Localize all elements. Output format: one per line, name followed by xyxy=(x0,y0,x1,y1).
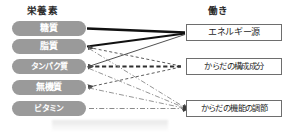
edge-fat-to-structure xyxy=(89,48,181,67)
nutrient-pill-vitamin[interactable]: ビタミン xyxy=(12,101,86,116)
nutrient-pill-protein[interactable]: タンパク質 xyxy=(12,59,86,74)
edge-fat-to-energy xyxy=(87,34,185,47)
nutrient-pill-mineral[interactable]: 無機質 xyxy=(12,80,86,95)
function-label: エネルギー源 xyxy=(208,28,260,37)
function-box-energy-source[interactable]: エネルギー源 xyxy=(186,24,282,41)
diagram-canvas: 栄養素 働き 糖質 脂質 xyxy=(0,0,295,133)
nutrient-label: 無機質 xyxy=(36,83,62,92)
nutrient-label: 糖質 xyxy=(40,24,58,33)
nutrient-pill-sugar[interactable]: 糖質 xyxy=(12,21,86,36)
nutrient-pill-fat[interactable]: 脂質 xyxy=(12,39,86,54)
nutrient-label: タンパク質 xyxy=(31,63,68,71)
nutrient-label: ビタミン xyxy=(34,105,63,113)
nutrient-label: 脂質 xyxy=(40,42,58,51)
function-box-body-structure[interactable]: からだの構成成分 xyxy=(186,58,282,75)
cropped-caption-remnant xyxy=(52,120,168,131)
function-label: からだの構成成分 xyxy=(204,62,263,70)
edge-sugar-to-energy xyxy=(87,29,185,33)
function-label: からだの機能の調節 xyxy=(201,104,268,112)
function-box-body-regulation[interactable]: からだの機能の調節 xyxy=(186,100,282,117)
edge-protein-to-regulation xyxy=(89,69,184,108)
